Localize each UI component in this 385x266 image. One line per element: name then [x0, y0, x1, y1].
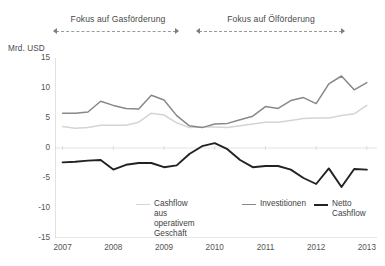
y-tick-label: 5: [20, 113, 50, 122]
x-axis-tick-labels: 2007200820092010201120122013: [0, 243, 385, 257]
y-tick-label: -15: [20, 233, 50, 242]
y-tick-label: 15: [20, 53, 50, 62]
legend-label: Netto Cashflow: [332, 199, 366, 219]
cashflow-line-chart: Fokus auf Gasförderung Fokus auf Ölförde…: [0, 0, 385, 266]
series-line-cashflow-aus-operativem-gesch-ft: [63, 105, 367, 128]
legend-label: Cashflow aus operativem Geschäft: [154, 199, 195, 239]
x-tick-label: 2011: [245, 243, 285, 252]
legend-label: Investitionen: [260, 199, 306, 209]
x-tick-label: 2013: [347, 243, 385, 252]
bracket-arrow-right-icon: [341, 28, 345, 34]
y-axis-tick-labels: 151050-5-10-15: [18, 0, 50, 266]
x-tick-label: 2012: [296, 243, 336, 252]
chart-legend: Cashflow aus operativem GeschäftInvestit…: [136, 200, 381, 224]
y-tick-label: 0: [20, 143, 50, 152]
series-line-investitionen: [63, 76, 367, 128]
bracket-arrow-left-icon: [53, 28, 57, 34]
bracket-line-gas: [56, 31, 176, 33]
bracket-label-gas: Fokus auf Gasförderung: [59, 14, 177, 24]
y-tick-label: 10: [20, 83, 50, 92]
bracket-line-oil: [199, 31, 342, 33]
legend-swatch: [136, 204, 150, 205]
y-tick-label: -5: [20, 173, 50, 182]
bracket-arrow-right-icon: [175, 28, 179, 34]
x-tick-label: 2008: [93, 243, 133, 252]
bracket-arrow-left-icon: [196, 28, 200, 34]
x-tick-label: 2007: [43, 243, 83, 252]
bracket-label-oil: Fokus auf Ölförderung: [199, 14, 343, 24]
y-tick-label: -10: [20, 203, 50, 212]
legend-swatch: [314, 204, 328, 206]
x-tick-label: 2009: [144, 243, 184, 252]
legend-swatch: [242, 204, 256, 205]
x-tick-label: 2010: [195, 243, 235, 252]
